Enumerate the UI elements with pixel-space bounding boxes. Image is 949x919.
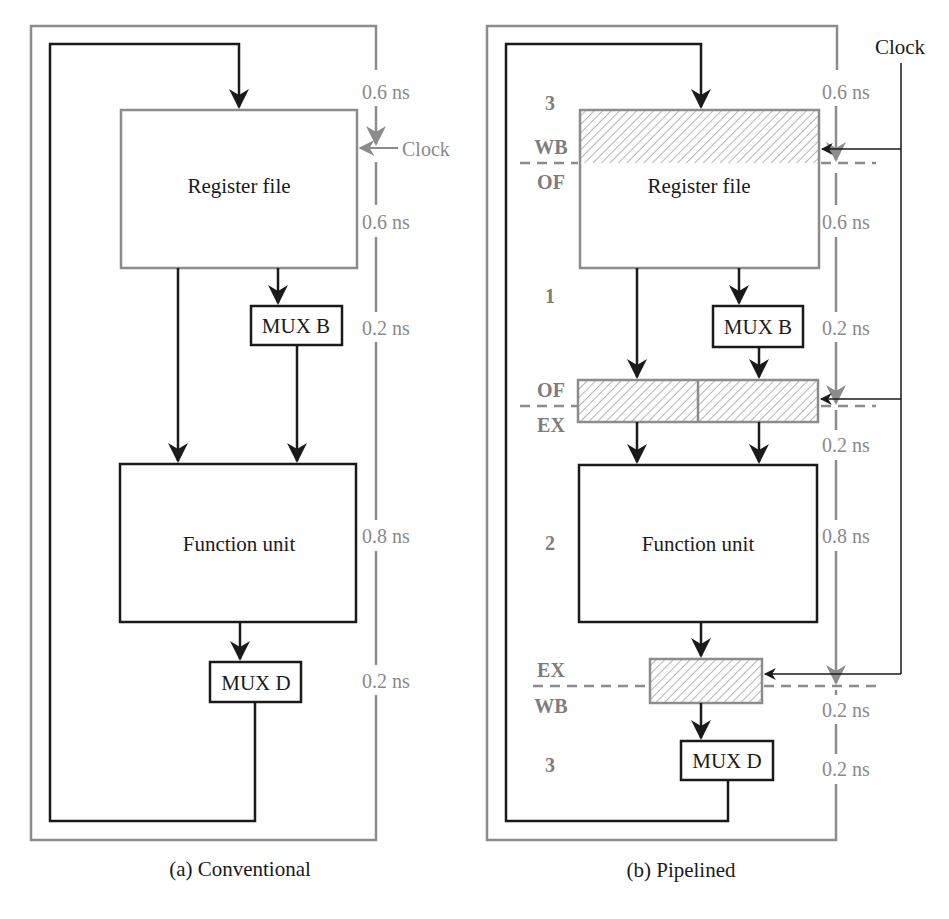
stage-label-wb: WB [534, 695, 567, 717]
clock-label: Clock [875, 35, 926, 59]
function-unit-label: Function unit [183, 532, 296, 556]
mux-d-label: MUX D [221, 671, 290, 695]
stage-label-ex: EX [537, 414, 565, 436]
timing-label: 0.6 ns [822, 81, 870, 103]
pipelined-diagram: Clock Register file 3 WB OF 1 MUX B OF E… [487, 26, 926, 882]
register-file-label: Register file [647, 174, 750, 198]
mux-d-label: MUX D [692, 749, 761, 773]
timing-label: 0.2 ns [822, 317, 870, 339]
clock-label: Clock [402, 138, 450, 160]
timing-label: 0.6 ns [362, 81, 410, 103]
stage-label-wb: WB [534, 136, 567, 158]
function-unit-label: Function unit [642, 532, 755, 556]
ex-wb-pipeline-register [650, 659, 762, 703]
datapath-figure: Register file Clock MUX B Function unit … [0, 0, 949, 919]
mux-b-label: MUX B [262, 314, 330, 338]
timing-label: 0.2 ns [822, 699, 870, 721]
stage-label-of: OF [537, 171, 565, 193]
wb-pipeline-register [581, 111, 818, 163]
conventional-diagram: Register file Clock MUX B Function unit … [31, 26, 450, 881]
timing-label: 0.2 ns [362, 670, 410, 692]
timing-label: 0.2 ns [362, 317, 410, 339]
caption-pipelined: (b) Pipelined [626, 858, 736, 882]
stage-number: 3 [545, 754, 555, 776]
timing-label: 0.2 ns [822, 758, 870, 780]
stage-label-ex: EX [537, 659, 565, 681]
timing-label: 0.2 ns [822, 434, 870, 456]
stage-number: 1 [545, 285, 555, 307]
register-file-label: Register file [187, 174, 290, 198]
timing-label: 0.6 ns [362, 211, 410, 233]
timing-label: 0.8 ns [822, 525, 870, 547]
timing-label: 0.6 ns [822, 211, 870, 233]
stage-label-of: OF [537, 379, 565, 401]
stage-number: 3 [545, 92, 555, 114]
stage-number: 2 [545, 532, 555, 554]
caption-conventional: (a) Conventional [169, 857, 311, 881]
timing-label: 0.8 ns [362, 525, 410, 547]
mux-b-label: MUX B [724, 315, 792, 339]
